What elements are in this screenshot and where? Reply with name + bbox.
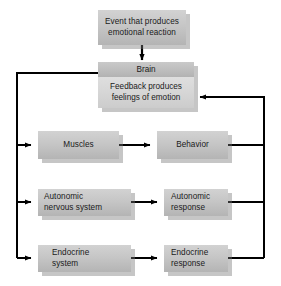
node-endocrine-response-line1: Endocrine bbox=[171, 248, 208, 259]
node-autonomic-response[interactable]: Autonomic response bbox=[164, 189, 228, 216]
node-endocrine-system-line1: Endocrine bbox=[52, 248, 89, 259]
node-behavior-label: Behavior bbox=[176, 140, 209, 151]
node-event-line2: emotional reaction bbox=[108, 28, 176, 39]
node-event[interactable]: Event that produces emotional reaction bbox=[98, 10, 186, 45]
node-event-line1: Event that produces bbox=[105, 17, 179, 28]
node-autonomic-nervous-system-line1: Autonomic bbox=[44, 192, 83, 203]
node-brain-line1: Feedback produces bbox=[110, 82, 182, 93]
node-muscles-label: Muscles bbox=[63, 140, 93, 151]
connector-right-bus-feedback-to-brain bbox=[200, 97, 264, 258]
node-endocrine-system[interactable]: Endocrine system bbox=[38, 245, 131, 272]
node-endocrine-system-line2: system bbox=[52, 259, 78, 270]
node-brain-body: Feedback produces feelings of emotion bbox=[98, 77, 194, 108]
node-brain-header: Brain bbox=[98, 62, 194, 77]
node-autonomic-response-line1: Autonomic bbox=[171, 192, 210, 203]
node-autonomic-nervous-system[interactable]: Autonomic nervous system bbox=[38, 189, 131, 216]
node-brain[interactable]: Brain Feedback produces feelings of emot… bbox=[98, 62, 194, 108]
node-muscles[interactable]: Muscles bbox=[38, 131, 119, 159]
node-endocrine-response[interactable]: Endocrine response bbox=[164, 245, 228, 272]
connector-brain-to-left-bus bbox=[17, 73, 98, 258]
node-behavior[interactable]: Behavior bbox=[157, 131, 228, 159]
flowchart-diagram: Event that produces emotional reaction B… bbox=[0, 0, 281, 286]
node-brain-line2: feelings of emotion bbox=[112, 93, 181, 104]
node-autonomic-response-line2: response bbox=[171, 203, 205, 214]
node-endocrine-response-line2: response bbox=[171, 259, 205, 270]
node-autonomic-nervous-system-line2: nervous system bbox=[44, 203, 102, 214]
